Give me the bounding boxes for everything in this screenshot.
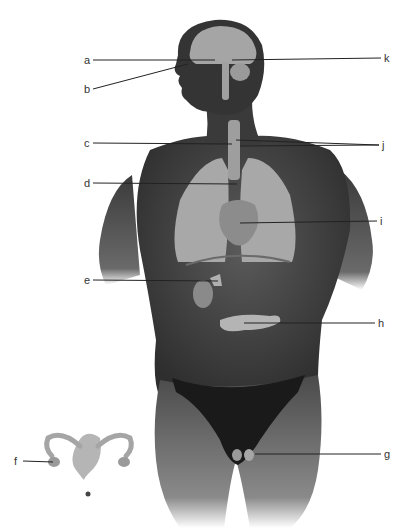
label-e: e bbox=[84, 274, 90, 286]
testis-right bbox=[244, 449, 254, 461]
uterus-inset bbox=[47, 434, 132, 497]
body-illustration bbox=[0, 0, 411, 528]
label-g: g bbox=[384, 448, 390, 460]
trachea bbox=[228, 120, 240, 180]
testis-left bbox=[232, 449, 242, 461]
label-c: c bbox=[84, 137, 90, 149]
label-h: h bbox=[378, 317, 384, 329]
label-d: d bbox=[84, 177, 90, 189]
brainstem bbox=[222, 62, 229, 100]
label-k: k bbox=[384, 52, 390, 64]
label-a: a bbox=[84, 54, 90, 66]
label-b: b bbox=[84, 83, 90, 95]
left-arm bbox=[99, 175, 140, 285]
label-j: j bbox=[382, 139, 384, 151]
label-f: f bbox=[14, 455, 17, 467]
leader-line-b bbox=[93, 64, 188, 89]
endocrine-diagram: abcdefghijk bbox=[0, 0, 411, 528]
cerebellum bbox=[230, 63, 250, 81]
kidney bbox=[193, 280, 213, 308]
label-i: i bbox=[380, 215, 382, 227]
